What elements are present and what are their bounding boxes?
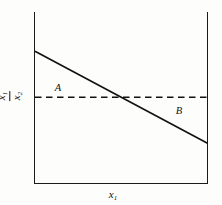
plot-area (0, 0, 222, 205)
y-axis-denominator: x2 (11, 91, 24, 101)
y-axis-label: x1 x2 (0, 91, 24, 101)
annotation-b: B (176, 106, 182, 117)
y-axis-numerator: x1 (0, 91, 10, 101)
x-axis-label: x1 (109, 189, 117, 202)
y-axis-fraction: x1 x2 (0, 91, 24, 101)
figure-canvas: x1 x2 x1 A B (0, 0, 222, 205)
annotation-a: A (55, 83, 61, 94)
